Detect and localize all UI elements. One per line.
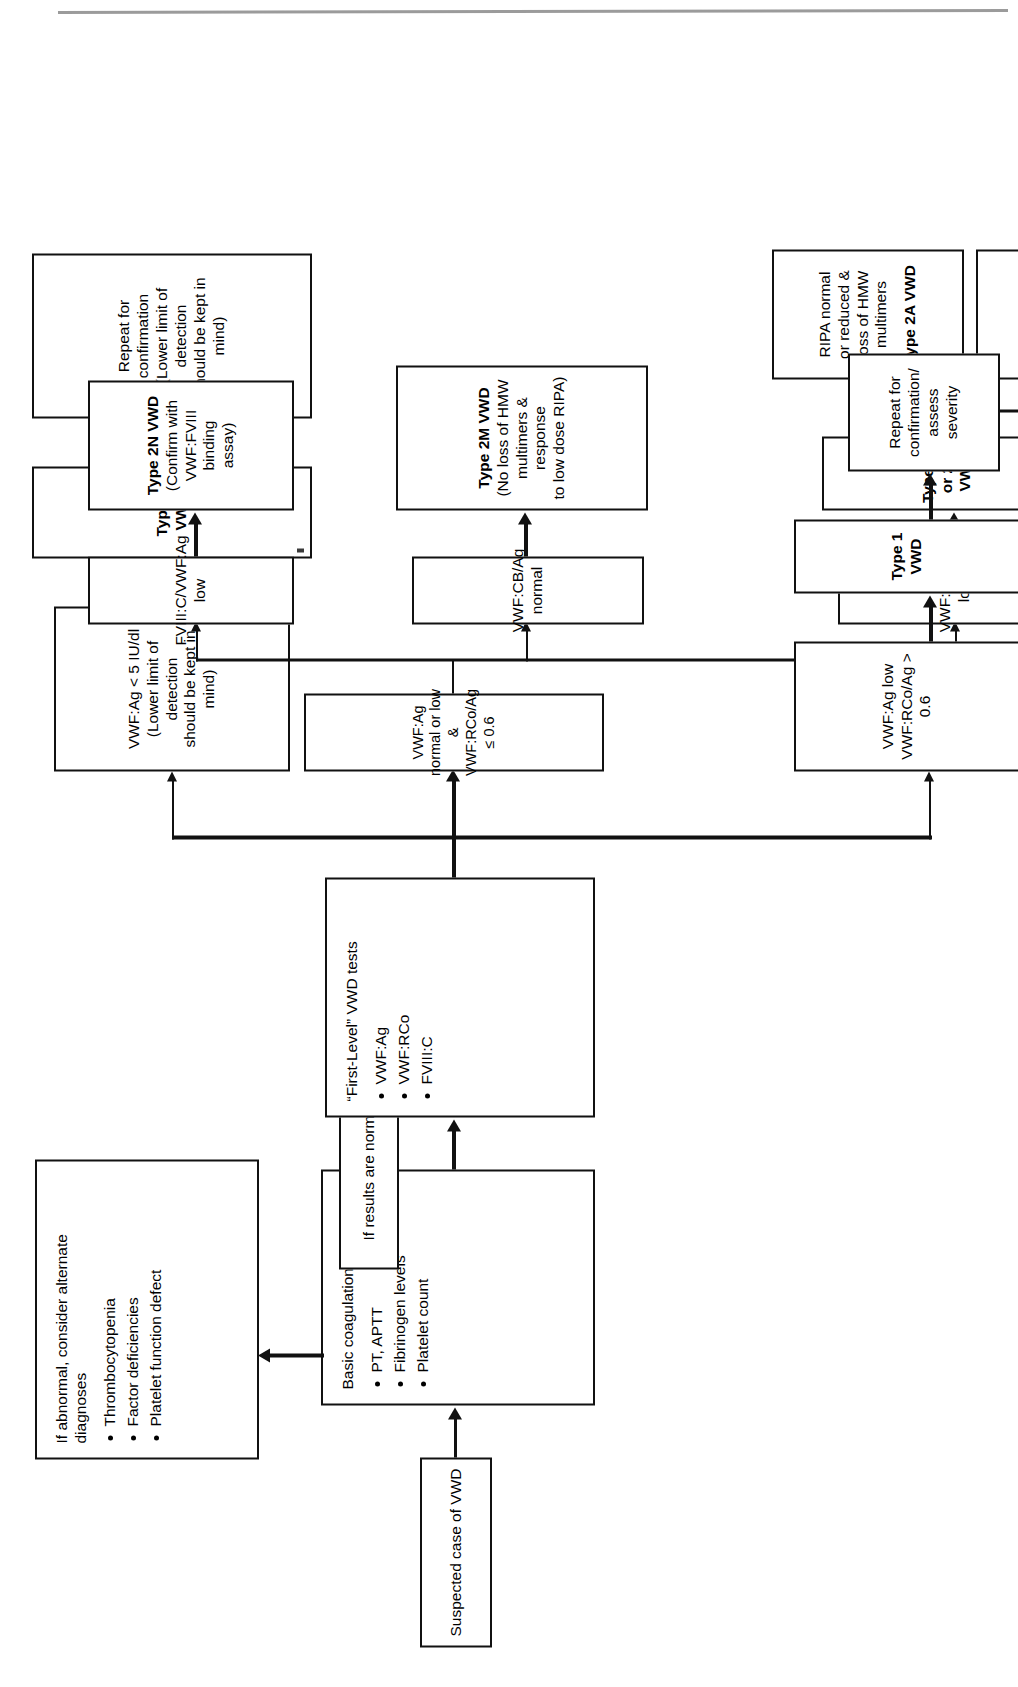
node-type1-vwd-label: Type 1 VWD <box>888 526 926 586</box>
edge-ratio-gt-to-type1-arrowhead <box>923 595 937 607</box>
edge-start-to-screen <box>454 1417 457 1457</box>
node-ratio-le-0-6[interactable]: VWF:Ag normal or low & VWF:RCo/Ag ≤ 0.6 <box>304 693 604 771</box>
node-ripa-normal-line3: loss of HMW <box>854 270 873 358</box>
flowchart-canvas: Suspected case of VWD Basic coagulation … <box>0 0 1018 1687</box>
node-ratio-gt-0-6-line1: VWF:Ag low <box>879 663 898 748</box>
first-level-bullet-list: VWF:Ag VWF:RCo FVIII:C <box>368 1014 441 1101</box>
first-level-bullet-3: FVIII:C <box>418 1014 437 1101</box>
page-canvas: Suspected case of VWD Basic coagulation … <box>0 0 1018 1687</box>
node-cb-ag-normal-label: VWF:CB/Ag normal <box>509 548 547 632</box>
basic-screen-bullet-3: Platelet count <box>414 1255 433 1389</box>
edge-cb-normal-to-type2m-arrowhead <box>518 512 532 524</box>
edge-trunk-to-ratio-le-branch <box>452 777 456 839</box>
edge-trunk-to-ratio-gt-branch <box>929 777 931 839</box>
edge-firstlevel-trunk-stub <box>452 837 456 877</box>
node-first-level-tests-label: “First-Level” VWD tests <box>343 941 362 1101</box>
abnormal-bullet-2: Factor deficiencies <box>124 1269 143 1443</box>
node-type1-vwd[interactable]: Type 1 VWD <box>794 519 1018 593</box>
node-if-results-are-normal-label: If results are normal <box>360 1103 379 1240</box>
edge-start-to-screen-arrowhead <box>448 1407 462 1419</box>
node-ripa-normal-line4: multimers <box>872 280 891 347</box>
node-if-abnormal[interactable]: If abnormal, consider alternate diagnose… <box>35 1159 259 1459</box>
edge-screen-to-firstlevel <box>452 1129 456 1169</box>
node-type2n-vwd-line2: VWF:FVIII binding <box>182 387 220 503</box>
node-ratio-gt-0-6[interactable]: VWF:Ag low VWF:RCo/Ag > 0.6 <box>794 641 1018 771</box>
edge-fviii-to-type2n <box>194 522 198 556</box>
first-level-bullet-2: VWF:RCo <box>395 1014 414 1101</box>
node-ripa-normal-line2: or reduced & <box>835 270 854 359</box>
edge-trunk-to-type3-branch <box>172 777 174 839</box>
node-suspected-case-label: Suspected case of VWD <box>447 1468 466 1636</box>
node-if-abnormal-label: If abnormal, consider alternate diagnose… <box>53 1175 91 1443</box>
node-type3-condition-line1: VWF:Ag < 5 IU/dl <box>125 628 144 748</box>
abnormal-bullet-3: Platelet function defect <box>147 1269 166 1443</box>
node-type1-repeat-line2: confirmation/ <box>905 368 924 457</box>
node-type2m-vwd[interactable]: Type 2M VWD (No loss of HMW multimers & … <box>396 365 648 510</box>
node-ripa-normal-result: Type 2A VWD <box>901 264 920 363</box>
edge-screen-to-abnormal <box>270 1353 324 1357</box>
scan-artifact-dot <box>297 548 304 552</box>
first-level-bullet-1: VWF:Ag <box>372 1014 391 1101</box>
edge-screen-to-abnormal-arrowhead <box>258 1348 270 1362</box>
node-cb-ag-normal[interactable]: VWF:CB/Ag normal <box>412 556 644 624</box>
node-type1-repeat-line1: Repeat for <box>886 376 905 448</box>
edge-firstlevel-trunk-spine <box>172 835 932 839</box>
node-type2m-vwd-line1: (No loss of HMW <box>494 379 513 496</box>
edge-trunk-to-ratio-gt-arrowhead <box>924 771 934 781</box>
node-type2n-vwd-line3: assay) <box>219 422 238 468</box>
node-type2m-vwd-line2: multimers & response <box>513 372 551 503</box>
edge-fviii-to-type2n-arrowhead <box>188 512 202 524</box>
basic-screen-bullet-1: PT, APTT <box>368 1255 387 1389</box>
abnormal-bullet-list: Thrombocytopenia Factor deficiencies Pla… <box>97 1269 170 1443</box>
node-type1-repeat[interactable]: Repeat for confirmation/ assess severity <box>848 353 1000 471</box>
node-suspected-case[interactable]: Suspected case of VWD <box>420 1457 492 1647</box>
edge-type1-to-repeat-arrowhead <box>923 473 937 485</box>
node-ratio-le-0-6-label: VWF:Ag normal or low & VWF:RCo/Ag ≤ 0.6 <box>410 688 498 775</box>
abnormal-bullet-1: Thrombocytopenia <box>101 1269 120 1443</box>
basic-screen-bullet-list: PT, APTT Fibrinogen levels Platelet coun… <box>364 1255 437 1389</box>
edge-ratio-gt-to-type1 <box>929 605 933 641</box>
edge-ratio-le-stub <box>452 659 454 693</box>
node-type2n-vwd[interactable]: Type 2N VWD (Confirm with VWF:FVIII bind… <box>88 380 294 510</box>
basic-screen-bullet-2: Fibrinogen levels <box>391 1255 410 1389</box>
node-first-level-tests[interactable]: “First-Level” VWD tests VWF:Ag VWF:RCo F… <box>325 877 595 1117</box>
node-type2m-vwd-line3: to low dose RIPA) <box>550 376 569 499</box>
edge-trunk-to-type3-arrowhead <box>167 771 177 781</box>
node-type2n-vwd-line1: (Confirm with <box>163 399 182 490</box>
edge-screen-to-firstlevel-arrowhead <box>447 1119 461 1131</box>
node-ripa-normal-line1: RIPA normal <box>816 271 835 357</box>
node-ratio-gt-0-6-line2: VWF:RCo/Ag > 0.6 <box>898 648 936 764</box>
node-fviii-vwfag-ratio-low[interactable]: FVIII:C/VWF:Ag low <box>88 556 294 624</box>
edge-cb-normal-to-type2m <box>524 522 528 556</box>
node-type2n-vwd-title: Type 2N VWD <box>144 395 163 495</box>
node-type2m-vwd-title: Type 2M VWD <box>475 387 494 488</box>
node-type1-repeat-line3: assess severity <box>924 360 962 464</box>
edge-type1-to-repeat <box>929 483 933 519</box>
node-fviii-vwfag-ratio-low-label: FVIII:C/VWF:Ag low <box>172 535 210 645</box>
